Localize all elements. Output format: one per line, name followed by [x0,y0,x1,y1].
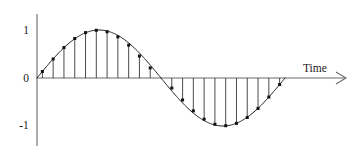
sample-point-marker [62,46,65,49]
sine-wave-figure: 1 0 -1 Time [0,0,362,156]
y-axis-tick-label-zero: 0 [23,72,29,84]
x-axis-name-label: Time [303,62,327,74]
sample-point-marker [246,116,249,119]
sample-point-marker [138,55,141,58]
sample-point-marker [235,122,238,125]
sample-point-marker [116,35,119,38]
sample-point-marker [41,70,44,73]
sample-point-marker [257,107,260,110]
sample-point-marker [106,30,109,33]
sample-point-marker [149,66,152,69]
sample-point-marker [192,109,195,112]
sample-point-marker [203,118,206,121]
sample-point-marker [213,123,216,126]
sample-point-marker [267,96,270,99]
sample-point-marker [73,37,76,40]
sample-point-marker [278,83,281,86]
sample-point-marker [181,98,184,101]
sample-point-marker [127,44,130,47]
sample-point-marker [95,29,98,32]
sample-point-marker [170,87,173,90]
y-axis-tick-label-positive-one: 1 [23,24,29,36]
sample-point-marker [224,124,227,127]
sample-point-marker [84,31,87,34]
y-axis-tick-label-negative-one: -1 [19,119,29,131]
plot-canvas: 1 0 -1 Time [0,0,362,156]
sample-point-marker [52,57,55,60]
